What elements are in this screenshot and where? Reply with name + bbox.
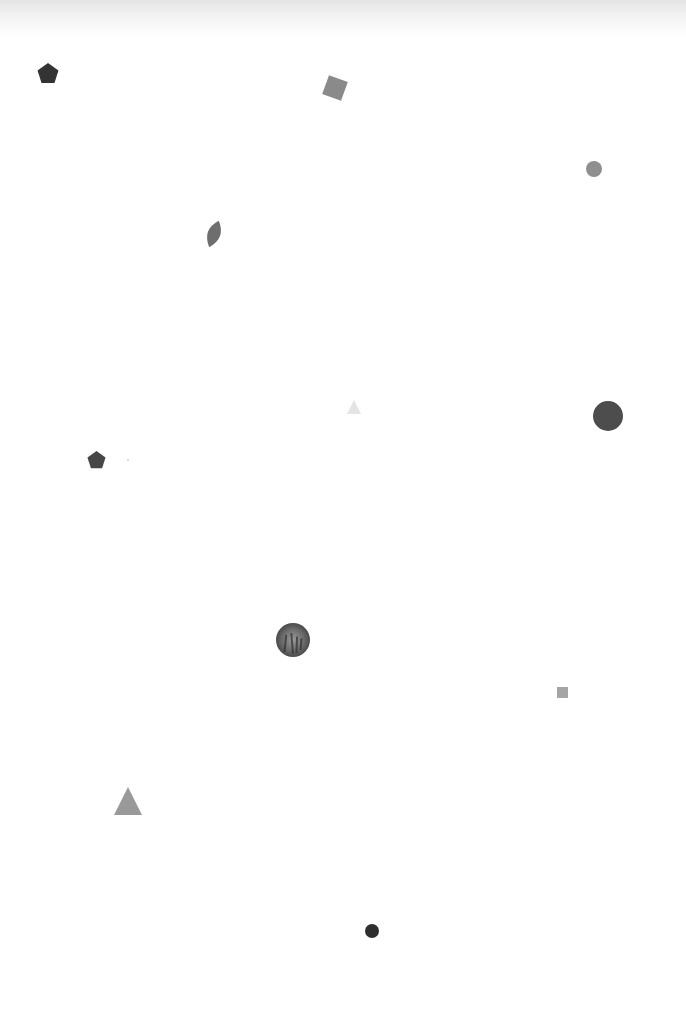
- leaf-shape: [196, 216, 232, 252]
- shape-canvas: [0, 0, 686, 1025]
- circle-shape: [586, 161, 602, 177]
- square-shape: [557, 687, 568, 698]
- triangle-shape: [114, 787, 142, 815]
- top-edge-shading: [0, 0, 686, 36]
- circle-shape: [365, 924, 379, 938]
- textured-circle-shape: [276, 623, 310, 657]
- circle-shape: [127, 459, 129, 461]
- square-shape: [322, 75, 348, 101]
- circle-shape: [593, 401, 623, 431]
- pentagon-shape: [87, 451, 106, 470]
- pentagon-shape: [37, 63, 59, 85]
- triangle-shape: [347, 400, 361, 414]
